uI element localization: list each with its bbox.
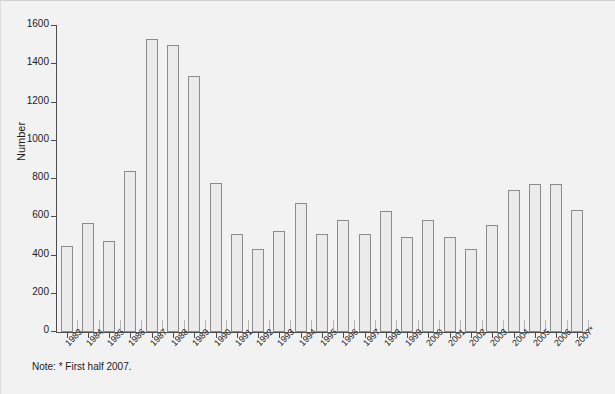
bar [529, 184, 541, 332]
bar [380, 211, 392, 332]
y-tick-label: 1400 [27, 56, 49, 67]
y-axis-title: Number [15, 122, 27, 161]
y-tick-label: 1600 [27, 18, 49, 29]
y-tick-label: 1000 [27, 133, 49, 144]
bar [571, 210, 583, 332]
chart-note: Note: * First half 2007. [32, 361, 132, 372]
bar [231, 234, 243, 332]
y-tick-label: 200 [32, 286, 49, 297]
y-tick-label: 1200 [27, 95, 49, 106]
bar [61, 246, 73, 332]
bar [252, 249, 264, 332]
bar [359, 234, 371, 332]
bar [550, 184, 562, 332]
bar [337, 220, 349, 332]
bar [422, 220, 434, 332]
bar [486, 225, 498, 332]
bar [295, 203, 307, 332]
y-tick-label: 0 [43, 324, 49, 335]
bar [465, 249, 477, 332]
y-tick-label: 400 [32, 248, 49, 259]
bar [210, 183, 222, 332]
bar [103, 241, 115, 332]
x-axis-line [56, 332, 589, 333]
bar [401, 237, 413, 332]
bar [124, 171, 136, 332]
y-axis-line [56, 26, 57, 333]
bar [167, 45, 179, 332]
plot-area: Number 02004006008001000120014001600 198… [56, 26, 588, 332]
chart-figure: Number 02004006008001000120014001600 198… [0, 0, 615, 394]
bar [508, 190, 520, 332]
bar [273, 231, 285, 332]
bar [316, 234, 328, 332]
y-tick-label: 800 [32, 171, 49, 182]
y-tick-label: 600 [32, 209, 49, 220]
bar [188, 76, 200, 332]
bar [82, 223, 94, 332]
bar [146, 39, 158, 332]
bar [444, 237, 456, 332]
